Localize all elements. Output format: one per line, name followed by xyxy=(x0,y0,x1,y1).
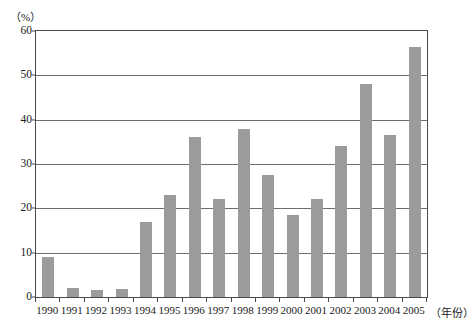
x-tick-mark xyxy=(84,298,85,302)
y-axis-unit-label: （%） xyxy=(10,8,41,24)
x-axis-title: （年份） xyxy=(430,304,472,320)
x-tick-label: 1995 xyxy=(158,304,180,316)
bar xyxy=(262,175,274,297)
y-tick-label: 50 xyxy=(21,70,33,82)
x-tick-mark xyxy=(279,298,280,302)
x-tick-label: 1994 xyxy=(134,304,156,316)
bar xyxy=(238,129,250,297)
y-tick-label: 10 xyxy=(21,247,33,259)
bar xyxy=(287,215,299,297)
x-tick-mark xyxy=(328,298,329,302)
x-tick-mark xyxy=(35,298,36,302)
x-axis: 1990199119921993199419951996199719981999… xyxy=(35,298,428,334)
bar xyxy=(164,195,176,297)
x-tick-label: 2002 xyxy=(329,304,351,316)
bar xyxy=(335,146,347,297)
bar xyxy=(116,289,128,297)
x-tick-label: 2004 xyxy=(378,304,400,316)
bars-group xyxy=(36,31,427,297)
y-tick-label: 0 xyxy=(26,291,32,303)
x-tick-mark xyxy=(426,298,427,302)
bar xyxy=(360,84,372,297)
x-tick-label: 1992 xyxy=(85,304,107,316)
x-tick-label: 2000 xyxy=(281,304,303,316)
x-tick-mark xyxy=(206,298,207,302)
bar-chart: （%） 0102030405060 1990199119921993199419… xyxy=(0,0,472,334)
x-tick-label: 1993 xyxy=(110,304,132,316)
x-tick-label: 1996 xyxy=(183,304,205,316)
y-tick-label: 20 xyxy=(21,203,33,215)
x-tick-label: 1997 xyxy=(207,304,229,316)
x-tick-mark xyxy=(157,298,158,302)
x-tick-mark xyxy=(304,298,305,302)
x-tick-label: 1991 xyxy=(61,304,83,316)
x-tick-mark xyxy=(231,298,232,302)
bar xyxy=(409,47,421,297)
x-tick-mark xyxy=(255,298,256,302)
x-tick-label: 2003 xyxy=(354,304,376,316)
x-tick-mark xyxy=(402,298,403,302)
bar xyxy=(384,135,396,297)
y-tick-label: 60 xyxy=(21,25,33,37)
x-tick-mark xyxy=(182,298,183,302)
x-tick-label: 1999 xyxy=(256,304,278,316)
plot-area: 0102030405060 xyxy=(35,30,428,298)
bar xyxy=(189,137,201,297)
bar xyxy=(91,290,103,297)
x-tick-mark xyxy=(353,298,354,302)
x-tick-label: 2005 xyxy=(403,304,425,316)
x-tick-mark xyxy=(108,298,109,302)
bar xyxy=(42,257,54,297)
x-tick-label: 1990 xyxy=(36,304,58,316)
x-tick-mark xyxy=(377,298,378,302)
bar xyxy=(213,199,225,297)
x-tick-label: 1998 xyxy=(232,304,254,316)
y-tick-label: 30 xyxy=(21,158,33,170)
bar xyxy=(67,288,79,297)
bar xyxy=(140,222,152,297)
bar xyxy=(311,199,323,297)
x-tick-label: 2001 xyxy=(305,304,327,316)
x-tick-mark xyxy=(133,298,134,302)
y-tick-label: 40 xyxy=(21,114,33,126)
x-tick-mark xyxy=(59,298,60,302)
